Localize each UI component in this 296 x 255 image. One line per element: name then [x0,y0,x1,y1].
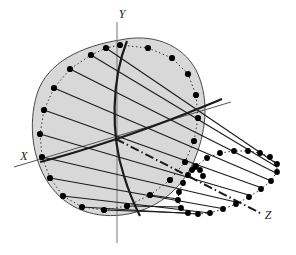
ellipse-node-dot [39,154,45,160]
loop-node-dot [207,210,213,216]
loop-node-dot [268,178,274,184]
ellipse-node-dot [167,177,173,183]
ellipse-node-dot [47,175,53,181]
y-axis-label: Y [119,7,127,21]
loop-node-dot [267,154,273,160]
loop-node-dot [274,161,280,167]
loop-node-dot [220,206,226,212]
loop-node-dot [195,211,201,217]
ellipse-node-dot [88,52,94,58]
loop-node-dot [192,164,198,170]
loop-node-dot [180,180,186,186]
ellipse-node-dot [67,66,73,72]
loop-node-dot [257,150,263,156]
ellipse-node-dot [101,207,107,213]
ellipse-node-dot [195,115,201,121]
ellipse-node-dot [169,55,175,61]
ellipse-node-dot [185,71,191,77]
loop-node-dot [231,148,237,154]
figure-canvas: XYZ [0,0,296,255]
ellipse-node-dot [124,203,130,209]
loop-node-dot [245,148,251,154]
ellipse-node-dot [103,45,109,51]
loop-node-dot [217,150,223,156]
ellipse-node-dot [191,138,197,144]
ellipse-node-dot [79,204,85,210]
ellipse-node-dot [41,107,47,113]
loop-node-dot [197,167,203,173]
ellipse-node-dot [182,159,188,165]
loop-node-dot [200,173,206,179]
loop-node-dot [176,189,182,195]
projection-diagram: XYZ [0,0,296,255]
loop-node-dot [178,205,184,211]
ellipse-node-dot [37,131,43,137]
loop-node-dot [185,172,191,178]
z-axis-label: Z [265,208,272,222]
loop-node-dot [175,197,181,203]
ellipse-node-dot [147,192,153,198]
ellipse-node-dot [193,92,199,98]
ellipse-node-dot [117,42,123,48]
loop-node-dot [246,194,252,200]
loop-node-dot [233,201,239,207]
loop-node-dot [185,210,191,216]
ellipse-node-dot [60,193,66,199]
loop-node-dot [258,186,264,192]
ellipse-node-dot [51,85,57,91]
x-axis-label: X [19,149,28,163]
ellipse-node-dot [145,45,151,51]
loop-node-dot [204,155,210,161]
loop-node-dot [274,169,280,175]
